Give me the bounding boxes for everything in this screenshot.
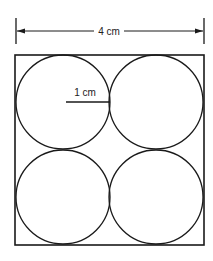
arrowhead-left-icon bbox=[17, 29, 25, 34]
arrowhead-right-icon bbox=[195, 29, 203, 34]
outer-square bbox=[15, 55, 204, 245]
width-dimension: 4 cm bbox=[16, 18, 204, 44]
circle-top-right bbox=[109, 55, 203, 149]
width-label: 4 cm bbox=[98, 26, 120, 37]
circle-bottom-right bbox=[109, 150, 203, 244]
circle-bottom-left bbox=[16, 150, 110, 244]
radius-label: 1 cm bbox=[74, 87, 96, 98]
diagram-canvas: 4 cm 1 cm bbox=[0, 0, 213, 261]
